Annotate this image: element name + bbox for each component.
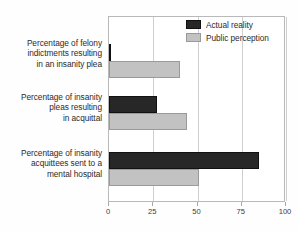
x-tick-mark (197, 202, 198, 206)
legend-label: Public perception (206, 33, 269, 43)
bar-public-perception-2 (109, 169, 199, 186)
bar-actual-reality-2 (109, 152, 259, 169)
legend: Actual reality Public perception (186, 19, 284, 45)
legend-swatch-icon-actual-reality (186, 20, 201, 29)
category-label-felony-indictments: Percentage of felony indictments resulti… (0, 38, 102, 69)
legend-item-actual-reality: Actual reality (186, 19, 284, 30)
x-tick-mark (241, 202, 242, 206)
bar-actual-reality-1 (109, 96, 157, 113)
legend-item-public-perception: Public perception (186, 32, 284, 43)
x-tick-mark (108, 202, 109, 206)
category-label-line: in an insanity plea (0, 59, 102, 69)
category-label-line: acquittees sent to a (0, 158, 102, 168)
category-label-line: indictments resulting (0, 48, 102, 58)
legend-swatch-icon-public-perception (186, 33, 201, 42)
category-label-line: Percentage of felony (0, 38, 102, 48)
bar-actual-reality-0 (109, 44, 111, 61)
x-tick-label: 75 (237, 207, 245, 216)
category-label-line: in acquittal (0, 113, 102, 123)
gridline (286, 17, 287, 201)
x-tick-mark (285, 202, 286, 206)
category-label-line: Percentage of insanity (0, 92, 102, 102)
x-tick-label: 25 (148, 207, 156, 216)
category-label-line: pleas resulting (0, 102, 102, 112)
bar-chart: Percentage of felony indictments resulti… (0, 0, 298, 232)
bar-public-perception-0 (109, 61, 180, 78)
x-tick-label: 0 (106, 207, 110, 216)
category-label-line: Percentage of insanity (0, 148, 102, 158)
x-tick-label: 50 (192, 207, 200, 216)
bar-public-perception-1 (109, 113, 187, 130)
x-axis: 0255075100 (108, 202, 285, 230)
x-tick-mark (152, 202, 153, 206)
category-label-line: mental hospital (0, 169, 102, 179)
x-tick-label: 100 (279, 207, 292, 216)
category-label-acquittees-mental-hospital: Percentage of insanity acquittees sent t… (0, 148, 102, 179)
category-axis-labels: Percentage of felony indictments resulti… (0, 0, 106, 202)
category-label-insanity-pleas-acquittal: Percentage of insanity pleas resulting i… (0, 92, 102, 123)
legend-label: Actual reality (206, 20, 253, 30)
